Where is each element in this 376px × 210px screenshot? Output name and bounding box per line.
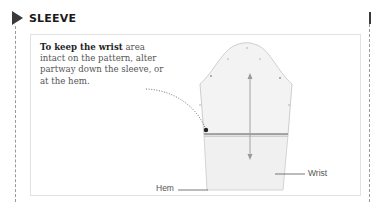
hem-label: Hem — [156, 183, 174, 193]
sleeve-diagram — [0, 0, 376, 210]
sleeve-lower-pattern — [204, 135, 288, 190]
leader-dot — [204, 128, 208, 132]
leader-dotted-line — [146, 89, 206, 130]
wrist-label: Wrist — [308, 168, 327, 178]
sleeve-upper-pattern — [200, 43, 292, 135]
